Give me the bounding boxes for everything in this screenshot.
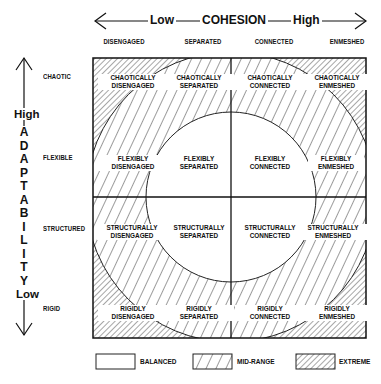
adaptability-letter: T bbox=[14, 180, 34, 194]
adaptability-letter: A bbox=[14, 126, 34, 140]
cell-line: FLEXIBLY bbox=[165, 155, 233, 163]
adaptability-title: A D A P T A B I L I T Y bbox=[14, 126, 34, 288]
cell-line: DISENGAGED bbox=[99, 313, 167, 321]
cell-rigidly-connected: RIGIDLYCONNECTED bbox=[235, 305, 305, 321]
legend-swatch-mid-range bbox=[193, 354, 232, 369]
cell-structurally-enmeshed: STRUCTURALLYENMESHED bbox=[298, 224, 368, 240]
adaptability-letter: L bbox=[14, 234, 34, 248]
cell-chaotically-disengaged: CHAOTICALLYDISENGAGED bbox=[98, 74, 168, 90]
cell-line: CHAOTICALLY bbox=[99, 74, 167, 82]
cell-chaotically-separated: CHAOTICALLYSEPARATED bbox=[164, 74, 234, 90]
legend-label-balanced: BALANCED bbox=[140, 358, 176, 365]
cell-line: ENMESHED bbox=[303, 82, 371, 90]
cell-line: CHAOTICALLY bbox=[303, 74, 371, 82]
row-label-rigid: RIGID bbox=[43, 305, 60, 312]
row-label-structured: STRUCTURED bbox=[43, 225, 85, 232]
cell-line: ENMESHED bbox=[299, 232, 367, 240]
cell-line: FLEXIBLY bbox=[99, 155, 167, 163]
adaptability-letter: B bbox=[14, 207, 34, 221]
diagram-graphics bbox=[0, 0, 381, 384]
adaptability-letter: Y bbox=[14, 275, 34, 289]
legend-label-extreme: EXTREME bbox=[339, 358, 370, 365]
adaptability-letter: P bbox=[14, 167, 34, 181]
cell-line: STRUCTURALLY bbox=[236, 224, 304, 232]
cell-chaotically-enmeshed: CHAOTICALLYENMESHED bbox=[302, 74, 372, 90]
cell-line: ENMESHED bbox=[309, 163, 363, 171]
cell-line: SEPARATED bbox=[165, 82, 233, 90]
cell-flexibly-enmeshed: FLEXIBLYENMESHED bbox=[308, 155, 364, 171]
col-label-disengaged: DISENGAGED bbox=[87, 38, 161, 45]
cell-line: CONNECTED bbox=[236, 232, 304, 240]
cell-line: SEPARATED bbox=[165, 313, 233, 321]
legend-label-mid-range: MID-RANGE bbox=[237, 358, 275, 365]
cell-rigidly-enmeshed: RIGIDLYENMESHED bbox=[302, 305, 372, 321]
cell-line: RIGIDLY bbox=[303, 305, 371, 313]
cell-line: SEPARATED bbox=[165, 163, 233, 171]
cell-line: STRUCTURALLY bbox=[299, 224, 367, 232]
cell-structurally-connected: STRUCTURALLYCONNECTED bbox=[235, 224, 305, 240]
col-label-separated: SEPARATED bbox=[166, 38, 240, 45]
cell-flexibly-connected: FLEXIBLYCONNECTED bbox=[235, 155, 305, 171]
adaptability-letter: D bbox=[14, 140, 34, 154]
cell-line: STRUCTURALLY bbox=[165, 224, 233, 232]
cell-structurally-separated: STRUCTURALLYSEPARATED bbox=[164, 224, 234, 240]
adaptability-low-label: Low bbox=[14, 288, 41, 300]
cohesion-low-label: Low bbox=[148, 13, 176, 27]
cell-line: CONNECTED bbox=[236, 82, 304, 90]
adaptability-letter: I bbox=[14, 221, 34, 235]
adaptability-letter: T bbox=[14, 261, 34, 275]
cell-line: CHAOTICALLY bbox=[165, 74, 233, 82]
cell-line: DISENGAGED bbox=[98, 232, 166, 240]
cell-line: CONNECTED bbox=[236, 163, 304, 171]
adaptability-letter: A bbox=[14, 153, 34, 167]
cell-rigidly-separated: RIGIDLYSEPARATED bbox=[164, 305, 234, 321]
legend-swatch-balanced bbox=[96, 354, 135, 369]
cell-line: CHAOTICALLY bbox=[236, 74, 304, 82]
cell-flexibly-disengaged: FLEXIBLYDISENGAGED bbox=[98, 155, 168, 171]
cohesion-high-label: High bbox=[291, 13, 322, 27]
cell-line: STRUCTURALLY bbox=[98, 224, 166, 232]
cell-line: DISENGAGED bbox=[99, 163, 167, 171]
adaptability-letter: A bbox=[14, 194, 34, 208]
cell-line: FLEXIBLY bbox=[309, 155, 363, 163]
cell-line: RIGIDLY bbox=[165, 305, 233, 313]
adaptability-high-label: High bbox=[12, 108, 42, 120]
cell-line: ENMESHED bbox=[303, 313, 371, 321]
cell-rigidly-disengaged: RIGIDLYDISENGAGED bbox=[98, 305, 168, 321]
cell-chaotically-connected: CHAOTICALLYCONNECTED bbox=[235, 74, 305, 90]
cohesion-title: COHESION bbox=[200, 13, 268, 27]
cell-line: SEPARATED bbox=[165, 232, 233, 240]
cell-line: RIGIDLY bbox=[99, 305, 167, 313]
cell-line: CONNECTED bbox=[236, 313, 304, 321]
cell-line: FLEXIBLY bbox=[236, 155, 304, 163]
cell-line: DISENGAGED bbox=[99, 82, 167, 90]
legend-swatch-extreme bbox=[296, 354, 335, 369]
cell-structurally-disengaged: STRUCTURALLYDISENGAGED bbox=[97, 224, 167, 240]
row-label-flexible: FLEXIBLE bbox=[43, 154, 73, 161]
row-label-chaotic: CHAOTIC bbox=[43, 73, 71, 80]
col-label-enmeshed: ENMESHED bbox=[310, 38, 381, 45]
cell-flexibly-separated: FLEXIBLYSEPARATED bbox=[164, 155, 234, 171]
col-label-connected: CONNECTED bbox=[237, 38, 311, 45]
adaptability-letter: I bbox=[14, 248, 34, 262]
cell-line: RIGIDLY bbox=[236, 305, 304, 313]
